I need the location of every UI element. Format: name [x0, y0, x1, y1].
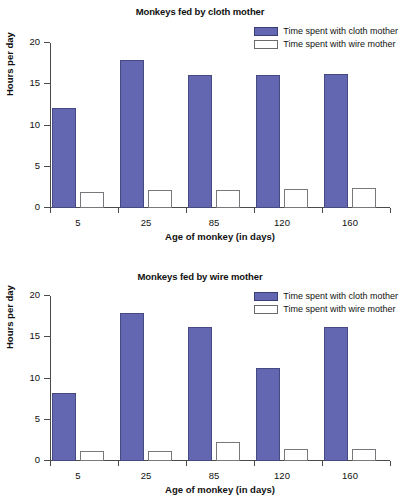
x-axis-tick [322, 461, 323, 466]
y-axis-tick: 15 [44, 83, 50, 84]
bar [256, 368, 280, 461]
x-axis-tick-label: 120 [274, 217, 290, 228]
x-axis-tick-label: 5 [75, 470, 80, 481]
bar [324, 74, 348, 208]
y-axis-tick: 20 [44, 295, 50, 296]
bar [52, 108, 76, 208]
y-axis-tick: 15 [44, 336, 50, 337]
bar [216, 442, 240, 461]
y-axis-title: Hours per day [4, 32, 15, 96]
x-axis-tick [322, 208, 323, 213]
bar [188, 327, 212, 461]
y-axis-tick: 10 [44, 125, 50, 126]
y-axis-tick: 20 [44, 42, 50, 43]
x-axis-tick-label: 25 [141, 470, 152, 481]
bar [148, 190, 172, 208]
bar [80, 192, 104, 209]
x-axis-tick-label: 160 [342, 470, 358, 481]
bar [284, 449, 308, 461]
y-axis-tick-label: 20 [29, 36, 40, 47]
legend-swatch-cloth-icon [254, 27, 278, 36]
x-axis-tick [390, 208, 391, 213]
x-axis-tick-label: 85 [209, 217, 220, 228]
chart-title: Monkeys fed by cloth mother [0, 6, 400, 17]
y-axis-tick-label: 0 [35, 454, 40, 465]
chart-title: Monkeys fed by wire mother [0, 271, 400, 282]
x-axis-tick [118, 461, 119, 466]
x-axis-title: Age of monkey (in days) [50, 484, 390, 495]
bar [256, 75, 280, 208]
legend-item-cloth-mother: Time spent with cloth mother [254, 25, 398, 37]
y-axis-tick: 5 [44, 166, 50, 167]
y-axis-tick-label: 0 [35, 201, 40, 212]
bar [80, 451, 104, 461]
chart-panel-cloth-mother: Monkeys fed by cloth mother Time spent w… [0, 0, 400, 250]
y-axis-title: Hours per day [4, 285, 15, 349]
x-axis-tick [50, 461, 51, 466]
bar [120, 313, 144, 462]
plot-area: 0510152052585120160 [50, 43, 390, 208]
bar [324, 327, 348, 461]
bar [352, 449, 376, 461]
x-axis-tick [118, 208, 119, 213]
legend-label-cloth: Time spent with cloth mother [283, 26, 398, 36]
bar [52, 393, 76, 461]
x-axis-tick-label: 85 [209, 470, 220, 481]
bar [284, 189, 308, 208]
bar [148, 451, 172, 461]
x-axis-tick [390, 461, 391, 466]
x-axis-tick-label: 120 [274, 470, 290, 481]
bar [216, 190, 240, 208]
bar [352, 188, 376, 208]
y-axis-tick: 10 [44, 378, 50, 379]
y-axis-tick-label: 10 [29, 119, 40, 130]
y-axis-line [50, 43, 51, 209]
x-axis-tick-label: 25 [141, 217, 152, 228]
x-axis-tick [50, 208, 51, 213]
y-axis-tick-label: 15 [29, 330, 40, 341]
y-axis-line [50, 296, 51, 462]
y-axis-tick-label: 15 [29, 77, 40, 88]
x-axis-tick [254, 208, 255, 213]
x-axis-tick [254, 461, 255, 466]
x-axis-title: Age of monkey (in days) [50, 231, 390, 242]
x-axis-tick-label: 5 [75, 217, 80, 228]
x-axis-tick [186, 208, 187, 213]
y-axis-tick-label: 5 [35, 413, 40, 424]
bar [120, 60, 144, 209]
chart-panel-wire-mother: Monkeys fed by wire mother Time spent wi… [0, 253, 400, 503]
x-axis-tick-label: 160 [342, 217, 358, 228]
y-axis-tick-label: 5 [35, 160, 40, 171]
x-axis-tick [186, 461, 187, 466]
y-axis-tick-label: 20 [29, 289, 40, 300]
y-axis-tick-label: 10 [29, 372, 40, 383]
bar [188, 75, 212, 208]
plot-area: 0510152052585120160 [50, 296, 390, 461]
y-axis-tick: 5 [44, 419, 50, 420]
